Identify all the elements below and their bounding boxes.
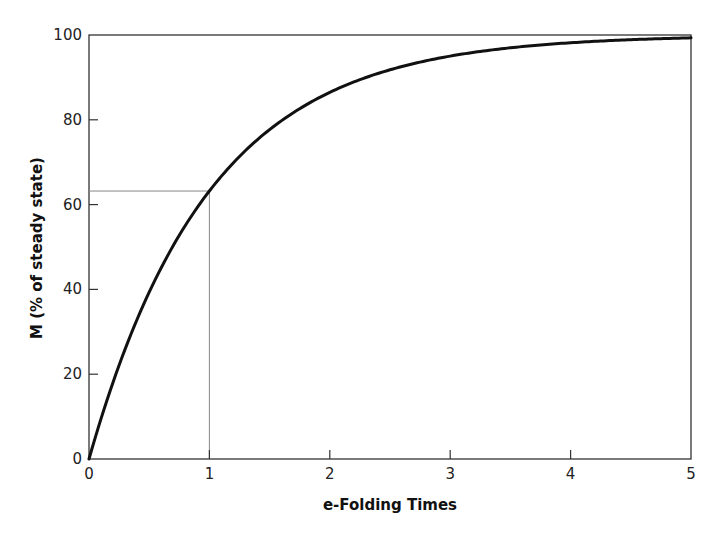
- y-tick-label: 20: [63, 365, 82, 383]
- x-axis-ticks: 012345: [84, 450, 696, 483]
- y-tick-label: 40: [63, 280, 82, 298]
- x-tick-label: 2: [325, 465, 335, 483]
- y-tick-label: 80: [63, 111, 82, 129]
- chart-canvas: 012345 020406080100 e-Folding Times M (%…: [0, 0, 718, 534]
- x-tick-label: 3: [445, 465, 455, 483]
- plot-frame: [89, 35, 691, 459]
- y-tick-label: 100: [53, 26, 82, 44]
- series-line: [89, 38, 691, 459]
- y-tick-label: 60: [63, 196, 82, 214]
- x-tick-label: 1: [205, 465, 215, 483]
- data-curve: [89, 38, 691, 459]
- x-tick-label: 4: [566, 465, 576, 483]
- x-tick-label: 5: [686, 465, 696, 483]
- reference-lines: [89, 191, 209, 459]
- plot-border: [89, 35, 691, 459]
- x-axis-title: e-Folding Times: [323, 496, 457, 514]
- x-tick-label: 0: [84, 465, 94, 483]
- y-axis-ticks: 020406080100: [53, 26, 98, 468]
- y-axis-title: M (% of steady state): [28, 157, 46, 339]
- y-tick-label: 0: [72, 450, 82, 468]
